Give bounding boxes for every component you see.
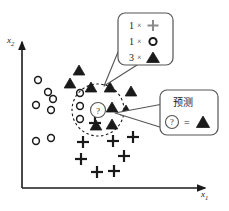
point-triangle xyxy=(125,86,137,96)
point-plus xyxy=(118,150,130,162)
point-circle xyxy=(35,77,42,84)
multiply-sign: × xyxy=(137,54,142,62)
callout-prediction xyxy=(115,90,218,135)
scatter-triangles xyxy=(64,65,137,130)
scatter-circles xyxy=(33,77,84,145)
figure-canvas: ? ? xyxy=(0,0,229,211)
callout-count-row-circle: 1 × xyxy=(128,37,142,47)
point-circle xyxy=(45,89,52,96)
y-axis-label: x2 xyxy=(7,36,14,47)
point-circle xyxy=(50,96,57,103)
point-circle xyxy=(33,138,40,145)
prediction-title: 预测 xyxy=(173,98,193,108)
point-circle xyxy=(33,102,40,109)
point-plus xyxy=(75,153,87,165)
point-plus xyxy=(91,166,103,178)
point-circle xyxy=(77,103,84,110)
point-circle xyxy=(77,116,84,123)
point-plus xyxy=(108,165,120,177)
count-value: 1 xyxy=(128,21,134,31)
point-plus xyxy=(127,131,139,143)
callout-count-row-plus: 1 × xyxy=(128,21,142,31)
point-triangle xyxy=(106,119,118,129)
x-axis-label: x1 xyxy=(201,190,208,201)
callout-prediction-tail xyxy=(115,104,163,128)
point-triangle xyxy=(64,78,76,88)
multiply-sign: × xyxy=(137,22,142,30)
point-triangle xyxy=(73,65,85,75)
knn-figure: ? ? x2 x1 xyxy=(0,0,229,211)
point-triangle xyxy=(106,102,118,112)
prediction-query-label: ? xyxy=(170,117,174,127)
prediction-equals-sign: = xyxy=(184,118,190,128)
multiply-sign: × xyxy=(137,38,142,46)
point-plus xyxy=(107,135,119,147)
point-circle xyxy=(48,107,55,114)
point-plus xyxy=(77,136,89,148)
query-point-label: ? xyxy=(96,106,100,116)
scatter-pluses xyxy=(75,117,139,178)
count-value: 1 xyxy=(128,37,134,47)
callout-count-row-triangle: 3 × xyxy=(128,53,142,63)
count-value: 3 xyxy=(128,53,134,63)
callout-counts-box xyxy=(118,13,173,65)
point-circle xyxy=(48,135,55,142)
